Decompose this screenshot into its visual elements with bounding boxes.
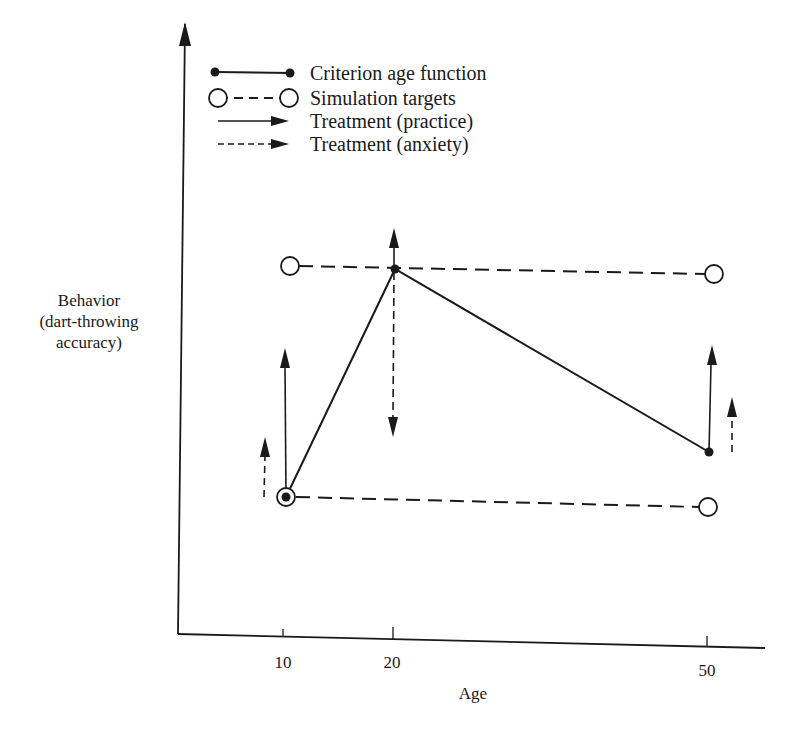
anxiety-arrow-age20: [393, 272, 394, 418]
legend-label-practice: Treatment (practice): [310, 110, 473, 133]
x-tick-label-10: 10: [275, 653, 292, 672]
y-axis-label-line2: (dart-throwing: [39, 312, 139, 331]
x-tick-label-20: 20: [384, 653, 401, 672]
criterion-point-age50: [705, 448, 714, 457]
arrow-right-icon: [271, 139, 289, 149]
simulation-target-upper-line: [299, 266, 705, 274]
y-axis-arrow-icon: [179, 22, 191, 46]
arrow-down-icon: [388, 417, 398, 437]
arrow-up-icon: [389, 228, 399, 248]
x-tick-label-50: 50: [699, 661, 716, 680]
criterion-age-function-line: [286, 269, 709, 497]
legend-item-criterion: Criterion age function: [211, 62, 487, 85]
criterion-point-age20: [391, 265, 400, 274]
practice-arrow-age10: [285, 366, 286, 497]
legend-label-anxiety: Treatment (anxiety): [310, 133, 469, 156]
legend-item-practice: Treatment (practice): [218, 110, 473, 133]
y-axis: [178, 22, 191, 634]
simulation-target-marker-upper-10: [281, 257, 299, 275]
y-axis-label: Behavior (dart-throwing accuracy): [39, 291, 139, 352]
arrow-up-icon: [707, 345, 717, 365]
y-axis-label-line1: Behavior: [58, 291, 121, 310]
simulation-target-marker-upper-50: [705, 265, 723, 283]
filled-dot-icon: [211, 68, 220, 77]
y-axis-label-line3: accuracy): [56, 333, 122, 352]
arrow-up-icon: [280, 348, 290, 368]
legend-item-simulation: Simulation targets: [209, 87, 456, 110]
legend: Criterion age function Simulation target…: [209, 62, 487, 156]
arrow-up-icon: [260, 437, 270, 457]
anxiety-arrow-age10: [264, 455, 265, 497]
practice-arrow-age50: [709, 364, 711, 452]
legend-item-anxiety: Treatment (anxiety): [218, 133, 469, 156]
x-axis: 10 20 50 Age: [178, 627, 765, 703]
chart-canvas: 10 20 50 Age Behavior (dart-throwing acc…: [0, 0, 792, 731]
open-circle-icon: [209, 89, 227, 107]
arrow-right-icon: [271, 116, 289, 126]
open-circle-icon: [280, 89, 298, 107]
legend-label-simulation: Simulation targets: [310, 87, 456, 110]
plot-area: [260, 228, 737, 516]
legend-label-criterion: Criterion age function: [310, 62, 487, 85]
x-axis-label: Age: [459, 684, 487, 703]
criterion-point-age10: [282, 493, 291, 502]
filled-dot-icon: [286, 69, 295, 78]
simulation-target-marker-lower-50: [699, 498, 717, 516]
simulation-target-lower-line: [296, 497, 699, 507]
arrow-up-icon: [727, 397, 737, 417]
